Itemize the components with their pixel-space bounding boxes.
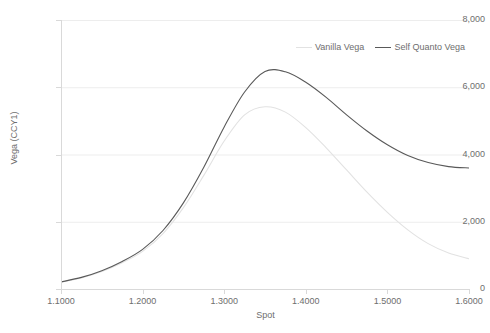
- x-axis-tick-mark: [469, 290, 470, 294]
- x-axis-tick-label: 1.2000: [113, 296, 173, 306]
- gridlines: [61, 21, 469, 290]
- series-line-vanilla-vega: [61, 107, 469, 283]
- chart-legend: Vanilla VegaSelf Quanto Vega: [296, 42, 465, 52]
- legend-item-label: Self Quanto Vega: [394, 42, 465, 52]
- y-axis-tick-label: 8,000: [433, 15, 485, 24]
- y-axis-tick-label: 4,000: [433, 150, 485, 159]
- y-axis-tick-label: 6,000: [433, 82, 485, 91]
- legend-line-icon: [296, 47, 312, 48]
- plot-area: [61, 20, 469, 289]
- x-axis-tick-mark: [143, 290, 144, 294]
- y-axis-tick-mark: [56, 222, 61, 223]
- series-line-self-quanto-vega: [61, 70, 469, 282]
- x-axis-tick-label: 1.1000: [31, 296, 91, 306]
- x-axis-tick-mark: [306, 290, 307, 294]
- x-axis-tick-label: 1.5000: [357, 296, 417, 306]
- x-axis-line: [61, 289, 470, 290]
- x-axis-tick-label: 1.6000: [439, 296, 490, 306]
- y-axis-tick-mark: [56, 155, 61, 156]
- y-axis-line: [61, 20, 62, 290]
- y-axis-tick-label: 2,000: [433, 217, 485, 226]
- y-axis-tick-label: 0: [433, 284, 485, 293]
- x-axis-tick-label: 1.4000: [276, 296, 336, 306]
- y-axis-tick-mark: [56, 87, 61, 88]
- legend-item[interactable]: Vanilla Vega: [296, 42, 364, 52]
- y-axis-tick-mark: [56, 20, 61, 21]
- legend-line-icon: [375, 47, 391, 48]
- legend-item[interactable]: Self Quanto Vega: [375, 42, 465, 52]
- x-axis-tick-label: 1.3000: [194, 296, 254, 306]
- x-axis-tick-mark: [387, 290, 388, 294]
- y-axis-title: Vega (CCY1): [9, 98, 19, 178]
- x-axis-tick-mark: [224, 290, 225, 294]
- x-axis-title: Spot: [61, 310, 470, 320]
- legend-item-label: Vanilla Vega: [315, 42, 364, 52]
- series-lines: [61, 70, 469, 283]
- plot-svg: [61, 20, 469, 289]
- x-axis-tick-mark: [61, 290, 62, 294]
